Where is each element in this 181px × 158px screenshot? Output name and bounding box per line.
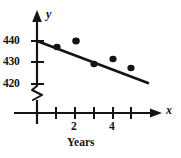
plot-canvas (0, 0, 181, 158)
y-tick-label-420: 420 (3, 78, 20, 90)
y-axis-name-label: y (46, 8, 51, 20)
data-point (72, 38, 80, 45)
x-tick-label-4: 4 (109, 121, 115, 133)
x-tick-label-2: 2 (71, 121, 77, 133)
data-point (109, 56, 116, 62)
data-point (53, 44, 60, 50)
data-point (127, 65, 134, 71)
y-tick-label-430: 430 (3, 56, 20, 68)
data-point (90, 61, 97, 67)
y-axis-arrowhead (32, 10, 42, 22)
x-axis-name-label: x (166, 104, 172, 116)
y-axis-break-zigzag (32, 86, 42, 100)
y-tick-label-440: 440 (3, 35, 20, 47)
x-axis-title: Years (67, 137, 94, 149)
scatter-plot-figure: 440 430 420 2 4 y x Years (0, 0, 181, 158)
x-axis-arrowhead (150, 108, 162, 117)
